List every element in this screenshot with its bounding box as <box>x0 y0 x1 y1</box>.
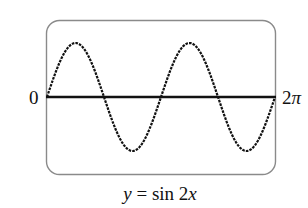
x-max-coefficient: 2 <box>282 87 292 108</box>
pi-symbol: π <box>292 87 302 108</box>
graph-caption: y = sin 2x <box>0 184 308 203</box>
plot-area <box>0 0 308 208</box>
caption-y-variable: y <box>123 183 131 204</box>
caption-x-variable: x <box>188 183 196 204</box>
sine-graph-figure: 0 2π y = sin 2x <box>0 0 308 208</box>
caption-equation: = sin 2 <box>132 183 189 204</box>
x-axis-min-label: 0 <box>29 88 39 107</box>
x-axis-max-label: 2π <box>282 88 301 107</box>
